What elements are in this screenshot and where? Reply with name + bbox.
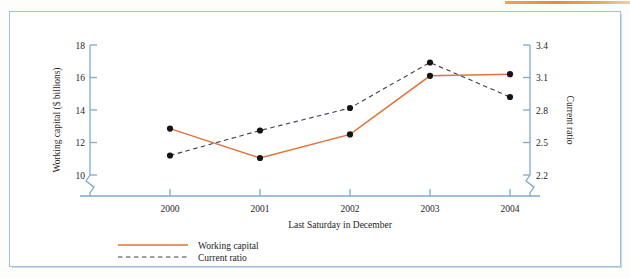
data-point-current-ratio-2004 (507, 94, 513, 100)
data-point-working-capital-2003 (427, 73, 433, 79)
left-axis-tick-18: 18 (76, 41, 86, 51)
x-axis-tick-2002: 2002 (341, 204, 360, 214)
data-point-current-ratio-2002 (347, 105, 353, 111)
right-axis-tick-25: 2.5 (536, 138, 548, 148)
right-axis-tick-22: 2.2 (536, 171, 548, 181)
left-axis-title: Working capital ($ billions) (52, 67, 63, 172)
left-axis-tick-12: 12 (76, 138, 86, 148)
left-axis: 18 16 14 12 10 Working capital ($ billio… (52, 41, 97, 197)
right-axis: 3.4 3.1 2.8 2.5 2.2 Current ratio (523, 41, 575, 197)
x-axis-tick-2001: 2001 (251, 204, 270, 214)
page-edge-orange-bar (505, 1, 630, 4)
series-current-ratio (167, 59, 513, 158)
left-axis-tick-16: 16 (76, 73, 86, 83)
data-point-working-capital-2004 (507, 71, 513, 77)
x-axis-tick-2004: 2004 (501, 204, 520, 214)
series-working-capital (167, 71, 513, 161)
figure-frame: 18 16 14 12 10 Working capital ($ billio… (9, 11, 621, 267)
left-axis-tick-10: 10 (76, 171, 86, 181)
legend-label-current-ratio: Current ratio (198, 253, 247, 263)
x-axis-title: Last Saturday in December (288, 220, 393, 230)
x-axis-tick-2000: 2000 (161, 204, 180, 214)
right-axis-tick-31: 3.1 (536, 73, 548, 83)
legend-label-working-capital: Working capital (198, 241, 259, 251)
right-axis-title: Current ratio (565, 96, 575, 145)
data-point-current-ratio-2000 (167, 152, 173, 158)
data-point-working-capital-2001 (257, 155, 263, 161)
left-axis-tick-14: 14 (76, 106, 86, 116)
right-axis-tick-28: 2.8 (536, 106, 548, 116)
line-chart: 18 16 14 12 10 Working capital ($ billio… (10, 12, 619, 265)
data-point-working-capital-2002 (347, 131, 353, 137)
x-axis: 2000 2001 2002 2003 2004 Last Saturday i… (80, 189, 540, 230)
figure-page: 18 16 14 12 10 Working capital ($ billio… (0, 0, 630, 278)
chart-legend: Working capital Current ratio (118, 241, 259, 263)
data-point-current-ratio-2001 (257, 127, 263, 133)
data-point-working-capital-2000 (167, 126, 173, 132)
x-axis-tick-2003: 2003 (421, 204, 440, 214)
data-point-current-ratio-2003 (427, 59, 433, 65)
right-axis-tick-34: 3.4 (536, 41, 548, 51)
